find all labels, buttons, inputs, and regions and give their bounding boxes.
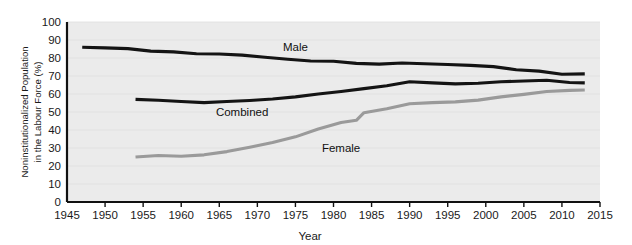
y-tick-label: 80 — [48, 52, 61, 64]
x-axis-title: Year — [298, 230, 321, 242]
x-tick-label: 1945 — [54, 209, 80, 221]
y-tick-label: 60 — [48, 88, 61, 100]
x-tick-label: 1950 — [92, 209, 118, 221]
x-tick-label: 1960 — [168, 209, 194, 221]
x-tick-label: 2010 — [549, 209, 575, 221]
x-tick-label: 1995 — [435, 209, 461, 221]
x-tick-label: 2000 — [473, 209, 499, 221]
series-label-female: Female — [322, 142, 360, 154]
y-axis-title-line1: Noninstitutionalized Population — [19, 46, 30, 177]
y-tick-label: 100 — [42, 16, 61, 28]
y-axis-title-line2: in the Labour Force (%) — [32, 62, 43, 163]
y-tick-label: 90 — [48, 34, 61, 46]
x-tick-label: 1965 — [206, 209, 232, 221]
y-tick-label: 70 — [48, 70, 61, 82]
labour-force-participation-chart: 0102030405060708090100 19451950195519601… — [0, 0, 632, 245]
x-tick-label: 1980 — [321, 209, 347, 221]
x-tick-label: 1975 — [283, 209, 309, 221]
y-tick-label: 50 — [48, 106, 61, 118]
chart-svg: 0102030405060708090100 19451950195519601… — [0, 0, 632, 245]
x-tick-label: 1955 — [130, 209, 156, 221]
x-tick-label: 2005 — [511, 209, 537, 221]
y-tick-label: 40 — [48, 124, 61, 136]
y-tick-label: 0 — [55, 196, 61, 208]
y-axis-tick-labels: 0102030405060708090100 — [42, 16, 61, 208]
x-tick-label: 1985 — [359, 209, 385, 221]
y-tick-label: 20 — [48, 160, 61, 172]
x-tick-label: 1990 — [397, 209, 423, 221]
series-label-male: Male — [283, 41, 308, 53]
y-tick-label: 30 — [48, 142, 61, 154]
x-tick-label: 2015 — [587, 209, 613, 221]
x-axis-tick-labels: 1945195019551960196519701975198019851990… — [54, 209, 613, 221]
y-tick-label: 10 — [48, 178, 61, 190]
x-tick-label: 1970 — [245, 209, 271, 221]
series-label-combined: Combined — [216, 106, 268, 118]
